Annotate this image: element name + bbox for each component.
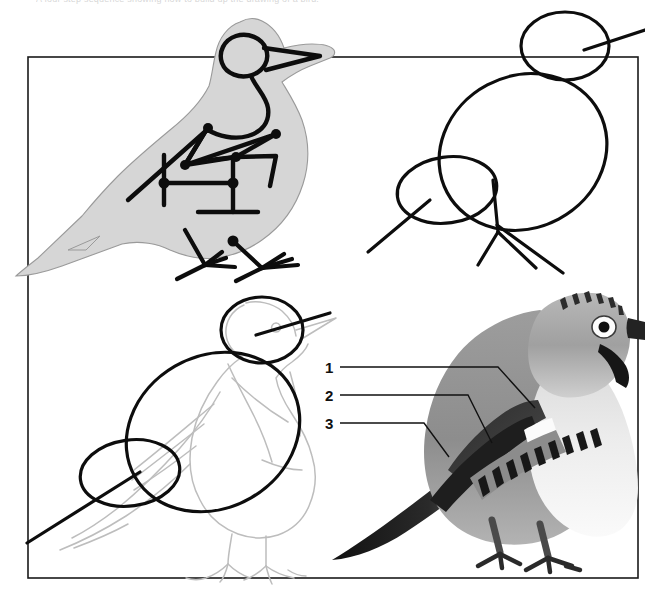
annotation-number-1: 1: [325, 359, 333, 376]
leader-line-2: [340, 395, 492, 443]
leader-line-1: [340, 367, 535, 408]
annotation-number-2: 2: [325, 387, 333, 404]
annotation-layer: 1 2 3: [0, 0, 645, 600]
leader-line-3: [340, 423, 449, 457]
annotation-number-3: 3: [325, 415, 333, 432]
illustration-page: A four step sequence showing how to buil…: [0, 0, 645, 600]
